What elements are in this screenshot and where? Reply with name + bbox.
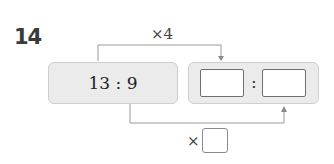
- ratio-colon: :: [251, 72, 257, 92]
- answer-blank-second[interactable]: [262, 69, 306, 97]
- top-arrow-icon: [218, 56, 224, 61]
- bottom-arrow-icon: [281, 106, 287, 112]
- answer-ratio-box: :: [188, 62, 319, 104]
- answer-blank-first[interactable]: [200, 69, 244, 97]
- top-multiplier-label: ×4: [151, 25, 173, 43]
- bottom-connector: [130, 104, 284, 123]
- top-connector: [98, 45, 221, 61]
- bottom-multiply-symbol: ×: [187, 132, 200, 150]
- given-ratio-box: 13 : 9: [48, 62, 178, 104]
- multiplier-blank[interactable]: [202, 128, 228, 153]
- given-ratio: 13 : 9: [89, 73, 138, 93]
